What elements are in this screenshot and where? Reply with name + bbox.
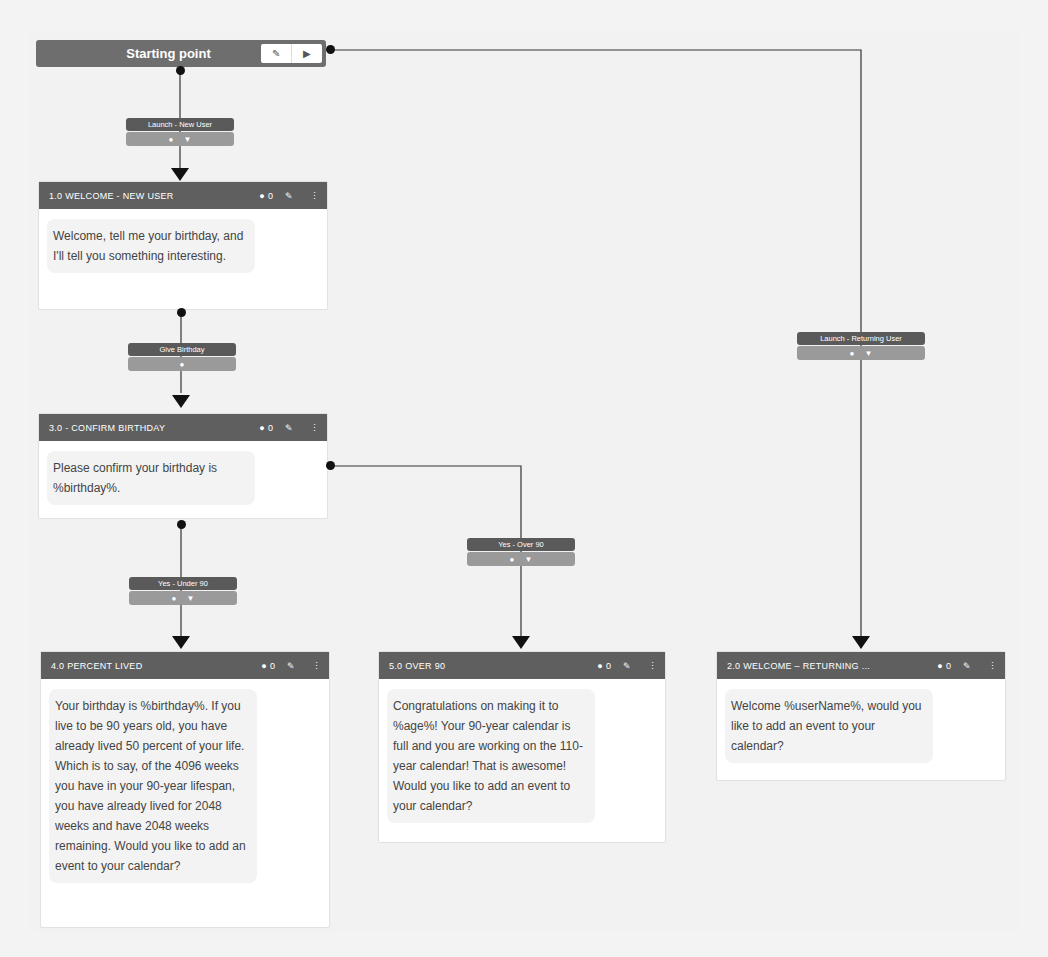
start-right-connector-dot[interactable] [326, 45, 335, 54]
edge-actions: ● ▼ [126, 132, 234, 146]
node-welcome-new-user-connector-dot[interactable] [177, 308, 186, 317]
more-menu-icon[interactable]: ⋮ [310, 191, 319, 201]
edge-give-birthday[interactable]: Give Birthday ● [128, 343, 236, 371]
edge-launch-returning-user[interactable]: Launch - Returning User ● ▼ [797, 332, 925, 360]
arrow-down-icon [512, 636, 530, 649]
starting-point-node[interactable]: Starting point ✎ ▶ [36, 40, 326, 67]
comment-icon: ● [597, 661, 603, 671]
speech-bubble-icon[interactable]: ● [510, 555, 515, 564]
arrow-down-icon [852, 636, 870, 649]
node-message: Please confirm your birthday is %birthda… [47, 451, 255, 505]
arrow-down-icon [172, 395, 190, 408]
edge-label: Give Birthday [128, 343, 236, 356]
comment-count[interactable]: ●0 [937, 661, 951, 671]
comment-count[interactable]: ●0 [261, 661, 275, 671]
node-body: Your birthday is %birthday%. If you live… [41, 679, 329, 895]
edge-launch-new-user[interactable]: Launch - New User ● ▼ [126, 118, 234, 146]
node-title: 1.0 WELCOME - NEW USER [49, 191, 247, 201]
node-over-90[interactable]: 5.0 OVER 90 ●0 ✎ ⋮ Congratulations on ma… [378, 651, 666, 843]
start-bottom-connector-dot[interactable] [176, 66, 185, 75]
speech-bubble-icon[interactable]: ● [172, 594, 177, 603]
filter-icon[interactable]: ▼ [524, 555, 532, 564]
filter-icon[interactable]: ▼ [186, 594, 194, 603]
arrow-down-icon [171, 168, 189, 181]
edge-yes-over-90[interactable]: Yes - Over 90 ● ▼ [467, 538, 575, 566]
edge-label: Yes - Over 90 [467, 538, 575, 551]
node-title: 3.0 - CONFIRM BIRTHDAY [49, 423, 247, 433]
edit-icon[interactable]: ✎ [261, 44, 292, 63]
edge-yes-under-90[interactable]: Yes - Under 90 ● ▼ [129, 577, 237, 605]
node-confirm-birthday-bottom-connector-dot[interactable] [177, 520, 186, 529]
filter-icon[interactable]: ▼ [183, 135, 191, 144]
node-message: Congratulations on making it to %age%! Y… [387, 689, 595, 823]
speech-bubble-icon[interactable]: ● [850, 349, 855, 358]
node-confirm-birthday[interactable]: 3.0 - CONFIRM BIRTHDAY ●0 ✎ ⋮ Please con… [38, 413, 328, 519]
node-message: Your birthday is %birthday%. If you live… [49, 689, 257, 883]
node-header: 1.0 WELCOME - NEW USER ●0 ✎ ⋮ [39, 182, 327, 209]
edge-actions: ● ▼ [467, 552, 575, 566]
comment-count[interactable]: ●0 [259, 423, 273, 433]
node-welcome-new-user[interactable]: 1.0 WELCOME - NEW USER ●0 ✎ ⋮ Welcome, t… [38, 181, 328, 310]
more-menu-icon[interactable]: ⋮ [988, 661, 997, 671]
comment-icon: ● [259, 191, 265, 201]
edge-label: Launch - Returning User [797, 332, 925, 345]
play-icon[interactable]: ▶ [292, 44, 322, 63]
more-menu-icon[interactable]: ⋮ [648, 661, 657, 671]
node-header: 5.0 OVER 90 ●0 ✎ ⋮ [379, 652, 665, 679]
node-header: 2.0 WELCOME – RETURNING ... ●0 ✎ ⋮ [717, 652, 1005, 679]
node-body: Welcome, tell me your birthday, and I'll… [39, 209, 327, 285]
comment-count[interactable]: ●0 [259, 191, 273, 201]
node-title: 2.0 WELCOME – RETURNING ... [727, 661, 925, 671]
node-header: 3.0 - CONFIRM BIRTHDAY ●0 ✎ ⋮ [39, 414, 327, 441]
node-message: Welcome, tell me your birthday, and I'll… [47, 219, 255, 273]
comment-count[interactable]: ●0 [597, 661, 611, 671]
edit-icon[interactable]: ✎ [963, 661, 971, 671]
arrow-down-icon [172, 636, 190, 649]
node-message: Welcome %userName%, would you like to ad… [725, 689, 933, 763]
edge-actions: ● [128, 357, 236, 371]
edge-actions: ● ▼ [129, 591, 237, 605]
node-confirm-birthday-right-connector-dot[interactable] [326, 461, 335, 470]
edge-actions: ● ▼ [797, 346, 925, 360]
node-body: Congratulations on making it to %age%! Y… [379, 679, 665, 835]
node-body: Welcome %userName%, would you like to ad… [717, 679, 1005, 775]
speech-bubble-icon[interactable]: ● [180, 360, 185, 369]
more-menu-icon[interactable]: ⋮ [312, 661, 321, 671]
node-body: Please confirm your birthday is %birthda… [39, 441, 327, 517]
starting-point-actions: ✎ ▶ [261, 44, 322, 63]
filter-icon[interactable]: ▼ [864, 349, 872, 358]
node-welcome-returning-user[interactable]: 2.0 WELCOME – RETURNING ... ●0 ✎ ⋮ Welco… [716, 651, 1006, 781]
more-menu-icon[interactable]: ⋮ [310, 423, 319, 433]
speech-bubble-icon[interactable]: ● [169, 135, 174, 144]
edit-icon[interactable]: ✎ [285, 423, 293, 433]
edge-label: Yes - Under 90 [129, 577, 237, 590]
node-header: 4.0 PERCENT LIVED ●0 ✎ ⋮ [41, 652, 329, 679]
edge-label: Launch - New User [126, 118, 234, 131]
comment-icon: ● [937, 661, 943, 671]
edit-icon[interactable]: ✎ [623, 661, 631, 671]
edit-icon[interactable]: ✎ [287, 661, 295, 671]
starting-point-title: Starting point [36, 46, 261, 61]
edit-icon[interactable]: ✎ [285, 191, 293, 201]
node-title: 4.0 PERCENT LIVED [51, 661, 249, 671]
comment-icon: ● [259, 423, 265, 433]
node-title: 5.0 OVER 90 [389, 661, 585, 671]
node-percent-lived[interactable]: 4.0 PERCENT LIVED ●0 ✎ ⋮ Your birthday i… [40, 651, 330, 928]
comment-icon: ● [261, 661, 267, 671]
